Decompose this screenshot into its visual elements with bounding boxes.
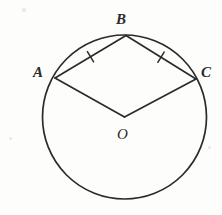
paper-speck [208,146,211,149]
paper-speck [9,137,12,140]
radius-OC [125,79,197,117]
geometry-figure: A B C O [0,0,222,215]
vertex-label-o: O [117,127,128,142]
paper-speck [22,8,26,12]
vertex-label-c: C [201,65,211,80]
tick-mark-AB [87,52,93,62]
vertex-label-a: A [33,65,43,80]
tick-mark-BC [158,52,164,62]
geometry-canvas [0,0,222,215]
radius-OA [55,78,125,117]
vertex-label-b: B [116,12,126,27]
